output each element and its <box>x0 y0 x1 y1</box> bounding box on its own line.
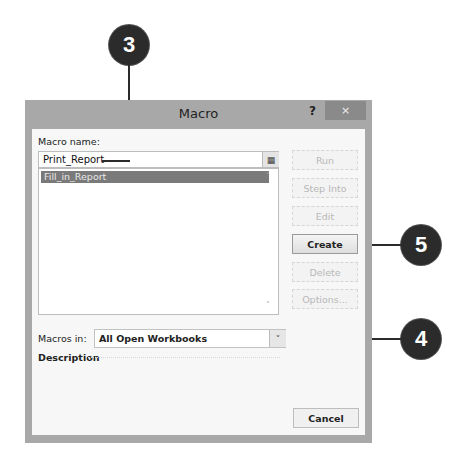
chevron-down-icon: ˅ <box>276 334 281 344</box>
scroll-down-icon[interactable]: ˅ <box>266 301 270 310</box>
close-icon: × <box>341 104 350 117</box>
collapse-dialog-button[interactable]: ▦ <box>262 152 279 167</box>
callout-5: 5 <box>401 225 441 265</box>
step-into-button[interactable]: Step Into <box>292 178 358 198</box>
macros-in-dropdown[interactable]: All Open Workbooks <box>94 329 286 348</box>
callout-3: 3 <box>109 25 149 65</box>
edit-button[interactable]: Edit <box>292 206 358 226</box>
macro-name-label: Macro name: <box>38 136 100 147</box>
scroll-up-icon[interactable]: ˄ <box>266 172 270 181</box>
title-bar[interactable]: Macro ? × <box>25 100 372 128</box>
help-button[interactable]: ? <box>309 104 316 118</box>
run-button[interactable]: Run <box>292 150 358 170</box>
callout-4: 4 <box>401 319 441 359</box>
delete-button[interactable]: Delete <box>292 262 358 282</box>
close-button[interactable]: × <box>325 101 366 120</box>
macro-list[interactable]: Fill_in_Report ˄ ˅ <box>38 168 279 315</box>
dropdown-arrow[interactable]: ˅ <box>269 330 286 347</box>
macro-dialog: Macro ? × Macro name: Print_Report ▦ Fil… <box>25 100 372 443</box>
macros-in-label: Macros in: <box>38 333 87 344</box>
macro-name-field[interactable]: Print_Report <box>38 151 279 168</box>
dialog-title: Macro <box>25 106 372 121</box>
description-divider <box>88 357 280 358</box>
options-button[interactable]: Options... <box>292 289 358 309</box>
cancel-button[interactable]: Cancel <box>293 408 359 428</box>
callout-3-leader-horizontal <box>102 160 130 162</box>
create-button[interactable]: Create <box>292 234 358 254</box>
list-scrollbar[interactable]: ˄ ˅ <box>262 169 278 314</box>
dialog-body: Macro name: Print_Report ▦ Fill_in_Repor… <box>32 129 365 435</box>
range-select-icon: ▦ <box>267 155 276 165</box>
macro-list-item[interactable]: Fill_in_Report <box>41 171 269 183</box>
